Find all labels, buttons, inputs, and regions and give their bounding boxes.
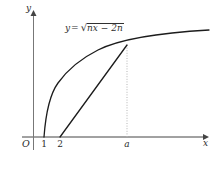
x-tick-label-a: a	[122, 140, 132, 149]
chord-line	[60, 45, 127, 137]
radicand-expression: nx − 2n	[87, 23, 124, 34]
curve-equation-annotation: y=√nx − 2n	[65, 22, 124, 34]
x-axis-label: x	[203, 139, 208, 148]
y-axis-label: y	[26, 4, 31, 13]
x-tick-label-2: 2	[55, 140, 65, 149]
y-axis-arrowhead	[31, 10, 37, 16]
origin-label: O	[22, 139, 30, 149]
x-tick-label-1: 1	[39, 140, 49, 149]
radical-expression: √nx − 2n	[80, 22, 124, 34]
function-graph-figure: y x O 1 2 a y=√nx − 2n	[0, 0, 220, 176]
equation-equals-sign: =	[70, 23, 80, 33]
